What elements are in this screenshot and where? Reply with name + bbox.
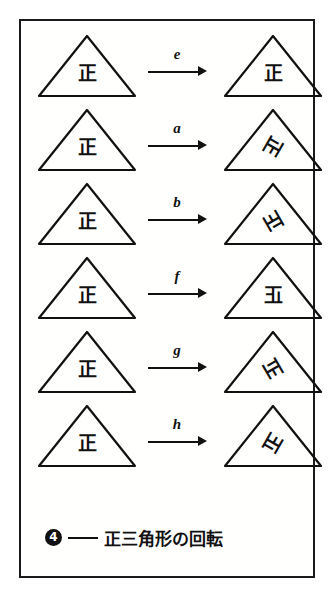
source-triangle: 正: [35, 180, 139, 248]
source-triangle: 正: [35, 32, 139, 100]
transformation-row: 正e正: [21, 29, 313, 103]
arrow-head-icon: [198, 140, 207, 150]
result-triangle: 正: [221, 402, 325, 470]
arrow-head-icon: [198, 66, 207, 76]
arrow-head-icon: [198, 436, 207, 446]
figure-number-badge: 4: [45, 529, 62, 546]
arrow-label: f: [146, 268, 208, 285]
result-triangle: 正: [221, 106, 325, 174]
source-triangle: 正: [35, 328, 139, 396]
result-triangle: 正: [221, 32, 325, 100]
transformation-row: 正h正: [21, 399, 313, 473]
transformation-row-list: 正e正正a正正b正正f正正g正正h正: [21, 21, 313, 473]
transformation-arrow: e: [139, 32, 215, 100]
arrow-line-icon: [148, 367, 200, 369]
arrow-label: a: [146, 120, 208, 137]
transformation-arrow: b: [139, 180, 215, 248]
arrow-head-icon: [198, 288, 207, 298]
transformation-row: 正a正: [21, 103, 313, 177]
arrow-line-icon: [148, 219, 200, 221]
figure-frame: 正e正正a正正b正正f正正g正正h正 4 正三角形の回転: [19, 19, 315, 578]
result-triangle: 正: [221, 328, 325, 396]
source-triangle: 正: [35, 254, 139, 322]
source-glyph: 正: [72, 280, 102, 310]
arrow-label: g: [146, 342, 208, 359]
arrow-label: b: [146, 194, 208, 211]
arrow-label: e: [146, 46, 208, 63]
source-triangle: 正: [35, 402, 139, 470]
source-glyph: 正: [72, 132, 102, 162]
arrow-line-icon: [148, 71, 200, 73]
transformation-arrow: h: [139, 402, 215, 470]
arrow-line-icon: [148, 293, 200, 295]
transformation-arrow: a: [139, 106, 215, 174]
source-glyph: 正: [72, 206, 102, 236]
transformation-arrow: f: [139, 254, 215, 322]
arrow-head-icon: [198, 362, 207, 372]
caption-text: 正三角形の回転: [104, 525, 223, 550]
source-glyph: 正: [72, 58, 102, 88]
caption-dash-rule: [68, 537, 98, 539]
transformation-row: 正b正: [21, 177, 313, 251]
source-triangle: 正: [35, 106, 139, 174]
arrow-line-icon: [148, 441, 200, 443]
arrow-label: h: [146, 416, 208, 433]
result-triangle: 正: [221, 180, 325, 248]
arrow-line-icon: [148, 145, 200, 147]
result-triangle: 正: [221, 254, 325, 322]
arrow-head-icon: [198, 214, 207, 224]
result-glyph: 正: [258, 280, 288, 310]
source-glyph: 正: [72, 354, 102, 384]
source-glyph: 正: [72, 428, 102, 458]
result-glyph: 正: [258, 58, 288, 88]
transformation-arrow: g: [139, 328, 215, 396]
transformation-row: 正f正: [21, 251, 313, 325]
transformation-row: 正g正: [21, 325, 313, 399]
figure-caption: 4 正三角形の回転: [45, 525, 223, 550]
